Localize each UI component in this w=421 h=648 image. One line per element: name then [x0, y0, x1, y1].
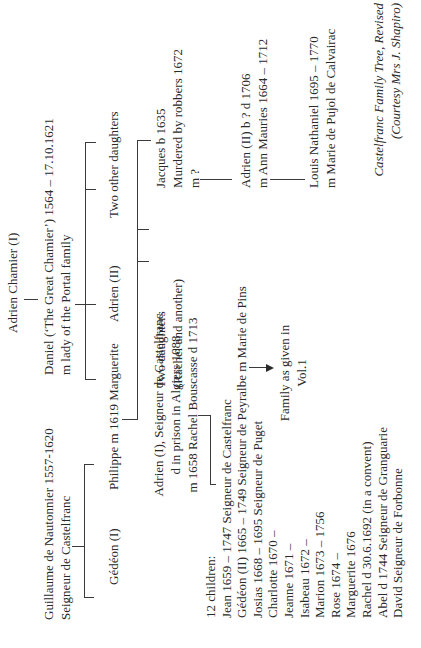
- child-item: Jeanne 1671 –: [281, 544, 297, 618]
- gen2-two-other-daughters: Two other daughters: [105, 111, 122, 218]
- child-item: Jean 1659 – 1747 Seigneur de Castelfranc: [219, 399, 235, 618]
- child-item: Gédéon (II) 1665 – 1749 Seigneur de Peyr…: [234, 286, 250, 618]
- arrow-shaft: [249, 367, 267, 368]
- bracket-philippe-tick-daughters-a: [137, 261, 149, 262]
- note-line1: Family as given in: [276, 313, 293, 433]
- bracket-daniel-tick-adrien-ii: [85, 304, 96, 305]
- guillaume-line1: Guillaume de Nautonnier 1557-1620: [40, 428, 57, 620]
- root-ancestor: Adrien Chamier (I): [4, 233, 21, 333]
- child-item: David Seigneur de Forbonne: [390, 468, 406, 618]
- bracket-daniel-tick-end: [85, 142, 96, 143]
- gen2-gedeon-i: Gédéon (I): [105, 528, 122, 585]
- bracket-daniel-tick-two-daughters: [85, 189, 96, 190]
- connector-adrien-ii-louis: [270, 179, 305, 180]
- daniel-line1: Daniel (‘The Great Chamier’) 1564 – 17.1…: [40, 118, 57, 375]
- louis-line2: m Marie de Pujol de Calvairac: [322, 29, 339, 188]
- adrien-i-line1: Adrien (I), Seigneur de Castelfranc: [150, 265, 167, 545]
- bracket-philippe: [137, 140, 138, 420]
- jacques-line2: Murdered by robbers 1672: [169, 49, 186, 188]
- connector-root-daniel: [24, 299, 38, 300]
- bracket-children-tick-top: [198, 415, 210, 416]
- bracket-philippe-tick-daughters-b: [137, 229, 149, 230]
- bracket-daniel-tick-philippe: [85, 379, 96, 380]
- gen2-philippe: Philippe m 1619 Marguerite: [105, 343, 122, 490]
- bracket-philippe-tick-jacques: [137, 140, 151, 141]
- bracket-guillaume: [84, 464, 85, 598]
- jacques-line1: Jacques b 1635: [152, 109, 169, 188]
- connector-philippe-stem: [122, 419, 137, 420]
- adrien-ii-b-line2: m Ann Mauries 1664 – 1712: [254, 39, 271, 188]
- guillaume-line2: Seigneur de Castelfranc: [57, 496, 74, 620]
- two-daughters-line1: Two daughters: [152, 311, 169, 388]
- bracket-children-tick-bottom: [210, 484, 216, 485]
- child-item: Abel d 1744 Seigneur de Granguarie: [375, 427, 391, 618]
- gen2-adrien-ii: Adrien (II): [105, 265, 122, 322]
- child-item: Marion 1673 – 1756: [312, 511, 328, 618]
- adrien-ii-b-line1: Adrien (II) b ? d 1706: [237, 74, 254, 188]
- daniel-line2: m lady of the Portal family: [57, 235, 74, 375]
- bracket-children: [210, 415, 211, 485]
- connector-jacques-adrien-ii: [200, 179, 232, 180]
- family-tree-page: Adrien Chamier (I) Daniel (‘The Great Ch…: [0, 0, 421, 648]
- children-heading: 12 children:: [203, 556, 219, 618]
- connector-daniel-stem: [75, 304, 85, 305]
- bracket-guillaume-tick-gedeon: [84, 597, 94, 598]
- child-item: Marguerite 1676: [343, 531, 359, 618]
- note-line2: Vol.1: [293, 313, 310, 433]
- adrien-i-line3: m 1658 Rachel Bouscasse d 1713: [184, 265, 201, 545]
- caption-line2: (Courtesy Mrs J. Shapiro): [387, 3, 404, 218]
- child-item: Rachel d 30.6.1692 (in a convent): [359, 441, 375, 618]
- connector-guillaume-stem: [72, 546, 84, 547]
- arrow-down-icon: [266, 364, 274, 372]
- child-item: Rose 1674 –: [328, 553, 344, 618]
- child-item: Isabeau 1672 –: [297, 539, 313, 618]
- child-item: Charlotte 1670 –: [265, 531, 281, 618]
- two-daughters-line2: (Rachel and another): [169, 279, 186, 388]
- bracket-daniel: [85, 142, 86, 380]
- louis-line1: Louis Nathaniel 1695 – 1770: [305, 36, 322, 188]
- caption-line1: Castelfranc Family Tree, Revised: [370, 3, 387, 218]
- bracket-guillaume-tick-philippe: [84, 464, 94, 465]
- child-item: Josias 1668 – 1695 Seigneur de Puget: [250, 421, 266, 618]
